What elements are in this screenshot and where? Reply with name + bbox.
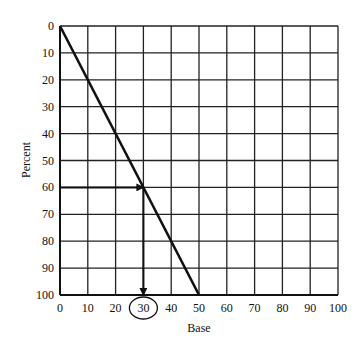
x-tick-label: 40 — [165, 301, 177, 315]
y-tick-label: 50 — [42, 154, 54, 168]
x-tick-label: 100 — [329, 301, 347, 315]
y-tick-label: 90 — [42, 261, 54, 275]
y-tick-label: 40 — [42, 127, 54, 141]
x-tick-label: 90 — [304, 301, 316, 315]
x-tick-label: 80 — [276, 301, 288, 315]
x-tick-label: 70 — [249, 301, 261, 315]
x-axis-label: Base — [187, 321, 210, 335]
x-tick-label: 60 — [221, 301, 233, 315]
y-tick-label: 0 — [48, 19, 54, 33]
y-tick-label: 70 — [42, 207, 54, 221]
y-tick-label: 30 — [42, 100, 54, 114]
x-axis-ticks: 0102030405060708090100 — [57, 297, 347, 319]
x-tick-label: 10 — [82, 301, 94, 315]
y-axis-ticks: 0102030405060708090100 — [36, 19, 54, 302]
y-tick-label: 100 — [36, 288, 54, 302]
y-tick-label: 80 — [42, 234, 54, 248]
x-tick-label: 20 — [110, 301, 122, 315]
x-tick-label: 0 — [57, 301, 63, 315]
y-tick-label: 10 — [42, 46, 54, 60]
chart: 0102030405060708090100 01020304050607080… — [0, 0, 364, 348]
grid — [60, 26, 338, 295]
y-tick-label: 20 — [42, 73, 54, 87]
y-axis-label: Percent — [19, 141, 33, 178]
y-tick-label: 60 — [42, 180, 54, 194]
x-tick-label: 30 — [137, 301, 149, 315]
x-tick-label: 50 — [193, 301, 205, 315]
